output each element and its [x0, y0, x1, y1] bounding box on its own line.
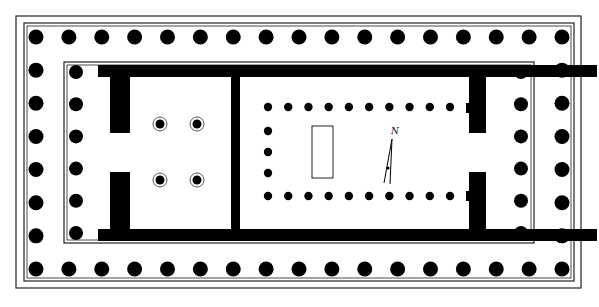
- cella-walls: [98, 65, 597, 241]
- ringed-column: [193, 120, 202, 129]
- temple-floor-plan: N: [0, 0, 599, 307]
- peristyle-column: [29, 96, 44, 111]
- north-label: N: [390, 126, 400, 136]
- back-room-columns: [153, 117, 204, 187]
- peristyle-column: [193, 262, 208, 277]
- wall-segment: [110, 65, 130, 133]
- ringed-column: [156, 176, 165, 185]
- wall-segment: [469, 65, 486, 133]
- interior-column: [385, 192, 393, 200]
- arrow-dot: [386, 166, 389, 169]
- wall-segment: [110, 172, 130, 241]
- peristyle-column: [127, 30, 142, 45]
- porch-column: [69, 194, 83, 208]
- peristyle-column: [61, 30, 76, 45]
- porch-column: [69, 65, 83, 79]
- interior-column: [426, 192, 434, 200]
- wall-anta: [466, 103, 470, 113]
- porch-column: [69, 226, 83, 240]
- porch-column: [514, 97, 528, 111]
- interior-column: [284, 103, 292, 111]
- interior-column: [405, 103, 413, 111]
- peristyle-column: [423, 262, 438, 277]
- peristyle-column: [226, 30, 241, 45]
- interior-column: [426, 103, 434, 111]
- interior-column: [324, 192, 332, 200]
- peristyle-column: [29, 30, 44, 45]
- interior-column: [304, 192, 312, 200]
- stylobate-line: [64, 62, 534, 243]
- interior-column: [365, 103, 373, 111]
- statue-base-outline: [312, 126, 333, 178]
- peristyle-column: [259, 30, 274, 45]
- porch-columns: [69, 65, 528, 240]
- peristyle-column: [292, 30, 307, 45]
- outer-border: [16, 16, 581, 288]
- peristyle-column: [423, 30, 438, 45]
- interior-column: [264, 192, 272, 200]
- peristyle-column: [456, 262, 471, 277]
- peristyle-column: [29, 228, 44, 243]
- ringed-column: [193, 176, 202, 185]
- wall-segment: [469, 172, 486, 241]
- interior-column: [365, 192, 373, 200]
- interior-column: [264, 103, 272, 111]
- peristyle-column: [29, 195, 44, 210]
- porch-column: [514, 129, 528, 143]
- wall-anta: [466, 191, 470, 201]
- interior-column: [284, 192, 292, 200]
- peristyle-column: [555, 129, 570, 144]
- interior-column: [264, 127, 272, 135]
- inner-stylobate-outline: [64, 62, 534, 243]
- peristyle-column: [29, 262, 44, 277]
- peristyle-column: [555, 262, 570, 277]
- peristyle-column: [324, 30, 339, 45]
- interior-column: [264, 169, 272, 177]
- porch-column: [69, 129, 83, 143]
- peristyle-column: [94, 262, 109, 277]
- interior-column: [264, 148, 272, 156]
- wall-segment: [231, 65, 240, 241]
- peristyle-column: [61, 262, 76, 277]
- peristyle-column: [555, 30, 570, 45]
- porch-column: [514, 162, 528, 176]
- peristyle-column: [29, 162, 44, 177]
- peristyle-column: [555, 96, 570, 111]
- peristyle-column: [160, 262, 175, 277]
- peristyle-column: [555, 162, 570, 177]
- porch-column: [514, 194, 528, 208]
- stylobate-line-inner: [67, 65, 531, 240]
- peristyle-column: [522, 30, 537, 45]
- peristyle-column: [555, 195, 570, 210]
- peristyle-column: [193, 30, 208, 45]
- wall-segment: [98, 65, 597, 77]
- north-arrow-icon: N: [384, 126, 400, 184]
- peristyle-column: [29, 63, 44, 78]
- interior-column: [345, 103, 353, 111]
- border-line-outer: [16, 16, 581, 288]
- peristyle-column: [357, 262, 372, 277]
- peristyle-column: [456, 30, 471, 45]
- peristyle-column: [127, 262, 142, 277]
- peristyle-column: [94, 30, 109, 45]
- peristyle-column: [522, 262, 537, 277]
- ringed-column: [156, 120, 165, 129]
- peristyle-column: [226, 262, 241, 277]
- peristyle-column: [390, 262, 405, 277]
- interior-column: [385, 103, 393, 111]
- interior-column: [405, 192, 413, 200]
- peristyle-column: [29, 129, 44, 144]
- interior-column: [324, 103, 332, 111]
- peristyle-column: [390, 30, 405, 45]
- peristyle-column: [489, 262, 504, 277]
- interior-column: [446, 103, 454, 111]
- wall-segment: [98, 229, 597, 241]
- interior-column: [345, 192, 353, 200]
- statue-base: [312, 126, 333, 178]
- porch-column: [69, 97, 83, 111]
- peristyle-column: [259, 262, 274, 277]
- peristyle-column: [489, 30, 504, 45]
- peristyle-column: [324, 262, 339, 277]
- peristyle-column: [160, 30, 175, 45]
- peristyle-column: [292, 262, 307, 277]
